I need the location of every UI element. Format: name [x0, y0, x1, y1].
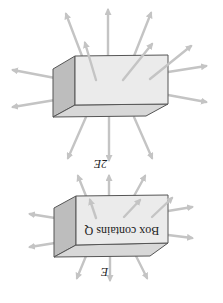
- box-label: Box contains Q: [84, 224, 159, 238]
- panel-box-E: Box contains Q E⃗: [30, 176, 192, 280]
- field-label-E: E⃗: [92, 265, 110, 279]
- box-front-face: [75, 55, 168, 105]
- electric-flux-boxes-diagram: 2E⃗ Box contains Q E⃗: [0, 0, 223, 303]
- field-label-2E: 2E⃗: [85, 157, 108, 171]
- panel-box-2E: 2E⃗: [13, 10, 206, 171]
